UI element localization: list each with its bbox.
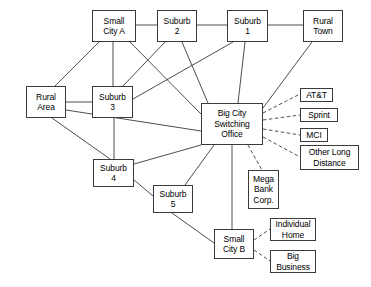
node-label-suburb4: Suburb 4: [100, 163, 127, 184]
node-big_city[interactable]: Big City Switching Office: [201, 103, 263, 145]
node-small_city_b[interactable]: Small City B: [214, 229, 254, 259]
network-diagram: Small City ASuburb 2Suburb 1Rural TownRu…: [0, 0, 371, 287]
node-label-small_city_b: Small City B: [223, 234, 245, 255]
edge-suburb2-to-big_city: [182, 42, 208, 103]
node-label-suburb5: Suburb 5: [160, 189, 187, 210]
edge-small_city_a-to-big_city: [130, 42, 201, 114]
edge-rural_area-to-suburb4: [52, 118, 110, 159]
node-small_city_a[interactable]: Small City A: [92, 10, 136, 42]
node-label-big_business: Big Business: [276, 251, 310, 272]
node-suburb2[interactable]: Suburb 2: [157, 10, 197, 42]
node-label-big_city: Big City Switching Office: [214, 108, 249, 140]
node-other_long[interactable]: Other Long Distance: [300, 145, 359, 170]
node-label-att: AT&T: [306, 90, 327, 101]
edge-big_city-to-att-dashed: [263, 94, 300, 113]
node-label-other_long: Other Long Distance: [309, 147, 351, 168]
node-suburb3[interactable]: Suburb 3: [92, 86, 133, 118]
node-att[interactable]: AT&T: [300, 88, 333, 102]
node-label-suburb3: Suburb 3: [99, 92, 126, 113]
edge-layer: [0, 0, 371, 287]
node-label-rural_area: Rural Area: [36, 92, 56, 113]
edge-big_city-to-mci-dashed: [263, 129, 300, 135]
edge-suburb5-to-big_city: [185, 145, 214, 185]
node-suburb1[interactable]: Suburb 1: [227, 10, 268, 42]
node-suburb4[interactable]: Suburb 4: [93, 159, 134, 187]
edge-suburb1-to-suburb3: [133, 42, 233, 99]
edge-small_city_a-to-rural_area: [55, 42, 99, 86]
node-label-individual: Individual Home: [276, 219, 311, 240]
node-mci[interactable]: MCI: [300, 128, 328, 142]
node-big_business[interactable]: Big Business: [270, 250, 316, 273]
edge-small_city_b-to-individual-dashed: [254, 229, 270, 240]
node-label-mci: MCI: [306, 130, 321, 141]
node-individual[interactable]: Individual Home: [270, 218, 316, 241]
node-suburb5[interactable]: Suburb 5: [153, 185, 193, 213]
edge-suburb1-to-big_city: [238, 42, 245, 103]
node-label-rural_town: Rural Town: [313, 16, 333, 37]
node-sprint[interactable]: Sprint: [300, 108, 338, 122]
edge-suburb4-to-suburb5: [134, 180, 153, 196]
edge-suburb2-to-suburb3: [123, 42, 165, 86]
edge-big_city-to-mega_bank-dashed: [248, 145, 262, 170]
node-label-suburb1: Suburb 1: [234, 16, 261, 37]
edge-big_city-to-sprint-dashed: [263, 115, 300, 120]
node-label-small_city_a: Small City A: [103, 16, 125, 37]
node-label-suburb2: Suburb 2: [164, 16, 191, 37]
edge-suburb5-to-small_city_b: [172, 213, 214, 243]
node-rural_area[interactable]: Rural Area: [26, 86, 66, 118]
node-label-sprint: Sprint: [308, 110, 330, 121]
node-label-mega_bank: Mega Bank Corp.: [253, 174, 274, 206]
edge-suburb4-to-big_city: [134, 145, 201, 164]
node-mega_bank[interactable]: Mega Bank Corp.: [248, 170, 279, 209]
edge-rural_area-to-big_city: [66, 110, 201, 131]
node-rural_town[interactable]: Rural Town: [303, 10, 343, 42]
edge-big_city-to-other_long-dashed: [263, 137, 300, 157]
edge-small_city_b-to-big_business-dashed: [254, 250, 270, 261]
